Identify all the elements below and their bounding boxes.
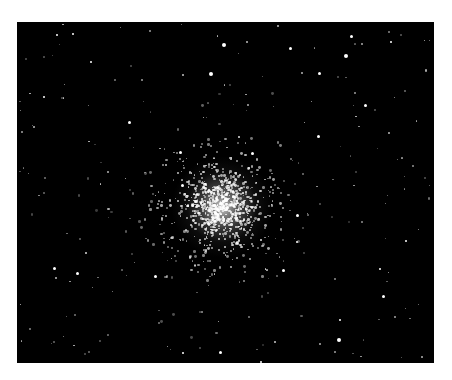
star [302, 173, 304, 175]
star [186, 205, 188, 207]
star [339, 319, 341, 321]
star [361, 221, 363, 223]
star [184, 199, 186, 201]
star [181, 207, 183, 209]
star [197, 271, 199, 273]
star [162, 252, 163, 253]
star [215, 207, 217, 209]
star [161, 218, 163, 220]
star [232, 213, 234, 215]
star [87, 177, 90, 180]
star [271, 173, 273, 175]
star [249, 258, 251, 260]
star [290, 200, 291, 201]
star [29, 328, 31, 330]
star [225, 254, 226, 255]
star [144, 172, 146, 174]
star [237, 197, 239, 199]
star [337, 76, 339, 78]
star [217, 35, 218, 36]
star [304, 122, 305, 123]
star [296, 214, 299, 217]
star [226, 147, 228, 149]
star [160, 233, 162, 235]
star [297, 240, 300, 243]
star [244, 154, 247, 157]
star [361, 43, 362, 44]
star [25, 58, 27, 60]
star [237, 175, 240, 178]
star [192, 260, 194, 262]
star [190, 215, 193, 218]
star [253, 209, 255, 211]
star [428, 197, 430, 199]
star [377, 148, 378, 149]
star [276, 253, 278, 255]
star [302, 227, 304, 229]
star [174, 255, 176, 257]
star [53, 341, 55, 343]
star [163, 232, 165, 234]
star [73, 345, 75, 347]
star [219, 351, 222, 354]
star [53, 267, 56, 270]
star [228, 224, 230, 226]
star [163, 238, 165, 240]
star [171, 258, 172, 259]
star [194, 210, 197, 213]
star [273, 106, 274, 107]
star [149, 171, 152, 174]
star [199, 347, 200, 348]
star [353, 105, 354, 106]
star-cluster-photo [17, 22, 434, 363]
star [154, 275, 157, 278]
star [76, 272, 79, 275]
star [202, 218, 204, 220]
star [194, 197, 196, 199]
star [210, 241, 211, 242]
star [185, 229, 186, 230]
star [230, 266, 232, 268]
star [150, 200, 153, 203]
star [94, 144, 96, 146]
star [165, 164, 167, 166]
star [233, 183, 236, 186]
star [279, 256, 281, 258]
star [38, 195, 40, 197]
star [207, 214, 209, 216]
star [222, 43, 226, 47]
star [272, 178, 275, 181]
star [203, 117, 204, 118]
star [100, 162, 102, 164]
star [233, 205, 235, 207]
star [239, 281, 241, 283]
star [140, 226, 143, 229]
star [218, 123, 221, 126]
star [158, 191, 160, 193]
star [354, 92, 356, 94]
star [173, 152, 175, 154]
star [194, 200, 197, 203]
star [164, 148, 166, 150]
star [149, 30, 151, 32]
star [202, 191, 204, 193]
star [32, 125, 33, 126]
star [234, 236, 236, 238]
star [279, 144, 282, 147]
star [197, 193, 200, 196]
star [275, 238, 277, 240]
star [219, 233, 221, 235]
star [280, 192, 282, 194]
star [143, 101, 144, 102]
star [334, 278, 335, 279]
star [226, 255, 229, 258]
star [387, 195, 388, 196]
star [344, 54, 348, 58]
star [251, 152, 254, 155]
star [133, 147, 134, 148]
star [177, 200, 179, 202]
star [261, 295, 264, 298]
star [265, 253, 266, 254]
star [31, 213, 34, 216]
star [43, 192, 45, 194]
